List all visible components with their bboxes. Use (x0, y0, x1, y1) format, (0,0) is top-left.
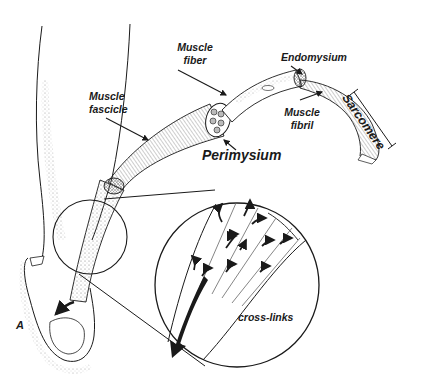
label-perimysium: Perimysium (202, 148, 281, 162)
label-muscle-fascicle: Muscle fascicle (89, 91, 128, 114)
label-muscle-fiber: Muscle fiber (175, 42, 215, 65)
magnified-view (155, 200, 319, 367)
label-muscle-fascicle-line2: fascicle (89, 104, 128, 115)
label-muscle-fascicle-line1: Muscle (89, 91, 128, 102)
heel-rotation-arrow (56, 302, 74, 314)
label-muscle-fiber-line2: fiber (175, 55, 215, 66)
label-muscle-fiber-line1: Muscle (175, 42, 215, 53)
tendon-cross-section (104, 178, 124, 194)
label-muscle-fibril-line2: fibril (282, 120, 322, 131)
label-muscle-fibril-line1: Muscle (282, 107, 322, 118)
panel-label-a: A (16, 320, 24, 331)
label-endomysium: Endomysium (281, 52, 347, 63)
label-cross-links: cross-links (238, 312, 293, 323)
label-muscle-fibril: Muscle fibril (282, 107, 322, 130)
leg-shading (42, 80, 66, 240)
